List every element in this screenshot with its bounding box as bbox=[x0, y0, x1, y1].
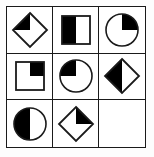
matrix-cell-r1c1[interactable] bbox=[7, 7, 53, 54]
square-left-half-icon bbox=[56, 10, 96, 50]
matrix-cell-r1c2[interactable] bbox=[53, 7, 99, 54]
matrix-cell-r3c2[interactable] bbox=[53, 100, 99, 147]
diamond-left-half-icon bbox=[102, 56, 142, 96]
matrix-cell-r2c1[interactable] bbox=[7, 54, 53, 101]
square-top-right-quadrant-icon bbox=[10, 56, 50, 96]
matrix-cell-r1c3[interactable] bbox=[99, 7, 145, 54]
circle-left-half-icon bbox=[10, 104, 50, 144]
matrix-cell-r3c3-empty[interactable]: blank bbox=[99, 100, 145, 147]
diamond-top-left-quadrant-icon bbox=[10, 10, 50, 50]
matrix-grid: blank bbox=[6, 6, 146, 148]
circle-top-left-quadrant-icon bbox=[56, 56, 96, 96]
diamond-top-right-quadrant-icon bbox=[56, 104, 96, 144]
circle-top-right-quadrant-icon bbox=[102, 10, 142, 50]
matrix-cell-r2c3[interactable] bbox=[99, 54, 145, 101]
matrix-cell-r3c1[interactable] bbox=[7, 100, 53, 147]
matrix-reasoning-puzzle: blank bbox=[0, 0, 154, 157]
matrix-cell-r2c2[interactable] bbox=[53, 54, 99, 101]
